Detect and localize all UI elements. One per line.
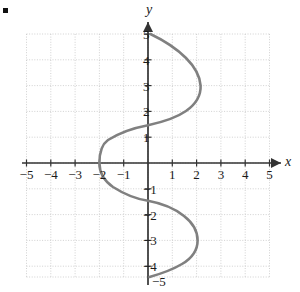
graph-figure: −5 −4 −3 −2 −1 1 2 3 4 5 5 4 3 2 1 −1 −2… (0, 0, 300, 292)
x-tick-label--2: −2 (92, 168, 106, 181)
x-tick-label--4: −4 (44, 168, 58, 181)
x-tick-label-1: 1 (169, 168, 176, 181)
x-tick-label--5: −5 (20, 168, 34, 181)
y-axis-label: y (146, 3, 152, 17)
x-tick-label--1: −1 (117, 168, 131, 181)
x-tick-label-4: 4 (242, 168, 249, 181)
x-tick-label--3: −3 (68, 168, 82, 181)
x-tick-label-3: 3 (218, 168, 225, 181)
x-axis-label: x (285, 155, 291, 169)
coordinate-plane (0, 0, 300, 292)
x-tick-label-5: 5 (266, 168, 273, 181)
x-tick-label-2: 2 (193, 168, 200, 181)
